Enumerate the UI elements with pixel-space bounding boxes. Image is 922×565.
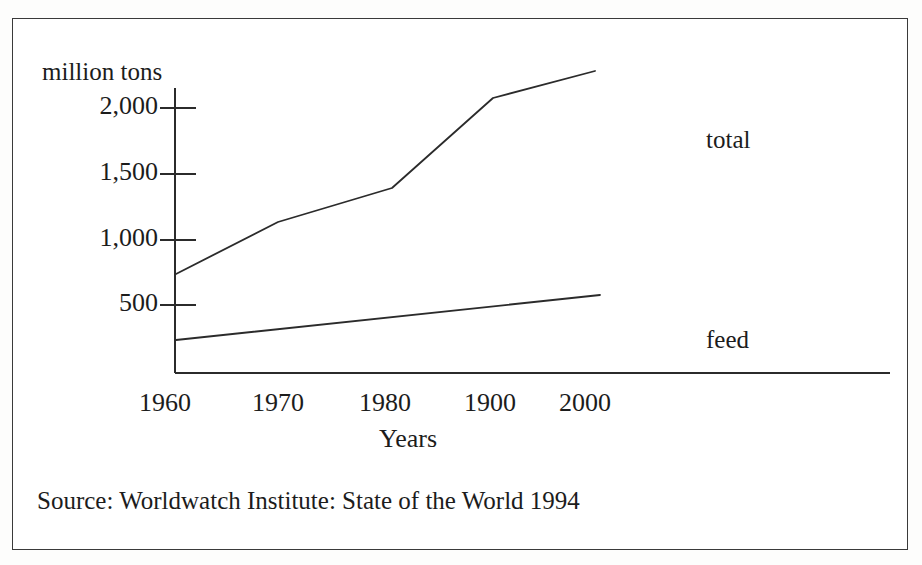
x-tick-label-1900: 1900 xyxy=(435,388,545,418)
x-tick-label-1980: 1980 xyxy=(330,388,440,418)
x-axis-title: Years xyxy=(333,424,483,454)
y-tick-label-1000: 1,000 xyxy=(28,223,158,253)
x-tick-label-1960: 1960 xyxy=(110,388,220,418)
source-note: Source: Worldwatch Institute: State of t… xyxy=(37,487,580,515)
figure-container: million tons 2,000 1,500 1,000 500 1960 … xyxy=(0,0,922,565)
y-axis-title: million tons xyxy=(42,58,162,86)
series-line-feed xyxy=(176,295,600,340)
series-label-total: total xyxy=(706,126,750,154)
x-tick-label-1970: 1970 xyxy=(223,388,333,418)
y-tick-label-500: 500 xyxy=(28,288,158,318)
series-line-total xyxy=(176,71,595,274)
y-tick-label-1500: 1,500 xyxy=(28,157,158,187)
y-tick-label-2000: 2,000 xyxy=(28,91,158,121)
series-label-feed: feed xyxy=(706,326,749,354)
x-tick-label-2000: 2000 xyxy=(530,388,640,418)
